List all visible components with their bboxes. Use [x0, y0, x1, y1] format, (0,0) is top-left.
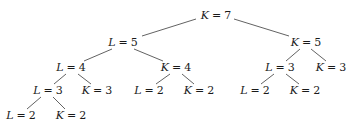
tree-edge — [261, 74, 274, 84]
node-value: 2 — [29, 109, 36, 122]
tree-edge — [134, 49, 163, 61]
node-equals: = — [169, 61, 184, 74]
node-equals: = — [41, 84, 56, 97]
tree-node: K=3 — [316, 62, 346, 74]
node-variable: K — [184, 84, 192, 97]
node-value: 3 — [339, 61, 346, 74]
tree-node: K=2 — [290, 85, 320, 97]
node-value: 3 — [56, 84, 63, 97]
node-variable: K — [316, 61, 324, 74]
node-value: 2 — [157, 84, 164, 97]
tree-edge — [27, 97, 41, 109]
tree-edge — [182, 74, 194, 84]
tree-node: L=5 — [108, 37, 138, 49]
node-value: 3 — [288, 61, 295, 74]
tree-edge — [234, 19, 289, 36]
tree-node: K=3 — [82, 85, 112, 97]
node-value: 3 — [105, 84, 112, 97]
node-variable: K — [291, 36, 299, 49]
node-value: 7 — [224, 9, 231, 22]
tree-node: L=4 — [56, 62, 86, 74]
tree-edge — [53, 97, 65, 109]
node-equals: = — [298, 84, 313, 97]
node-variable: K — [161, 61, 169, 74]
node-value: 2 — [263, 84, 270, 97]
node-variable: K — [56, 109, 64, 122]
node-value: 4 — [184, 61, 191, 74]
tree-edge — [78, 74, 91, 84]
node-equals: = — [273, 61, 288, 74]
tree-node: K=2 — [56, 110, 86, 122]
node-equals: = — [142, 84, 157, 97]
tree-node: L=2 — [6, 110, 36, 122]
node-value: 4 — [79, 61, 86, 74]
node-equals: = — [209, 9, 224, 22]
tree-node: K=7 — [201, 10, 231, 22]
tree-node: L=3 — [265, 62, 295, 74]
tree-edge — [84, 49, 112, 61]
node-equals: = — [64, 61, 79, 74]
node-variable: K — [290, 84, 298, 97]
tree-node: L=2 — [134, 85, 164, 97]
node-value: 5 — [131, 36, 138, 49]
node-value: 2 — [207, 84, 214, 97]
tree-edge — [311, 49, 326, 61]
tree-node: L=2 — [240, 85, 270, 97]
tree-edge — [286, 49, 300, 61]
node-equals: = — [14, 109, 29, 122]
node-equals: = — [299, 36, 314, 49]
tree-node: K=4 — [161, 62, 191, 74]
tree-edge — [156, 74, 170, 84]
node-value: 5 — [314, 36, 321, 49]
tree-node: L=3 — [33, 85, 63, 97]
tree-edge — [54, 74, 66, 84]
node-equals: = — [116, 36, 131, 49]
node-equals: = — [324, 61, 339, 74]
tree-edge — [286, 74, 299, 84]
node-equals: = — [90, 84, 105, 97]
tree-node: K=2 — [184, 85, 214, 97]
node-variable: K — [82, 84, 90, 97]
tree-edge — [142, 19, 196, 36]
node-equals: = — [64, 109, 79, 122]
node-value: 2 — [313, 84, 320, 97]
node-variable: K — [201, 9, 209, 22]
node-equals: = — [192, 84, 207, 97]
tree-node: K=5 — [291, 37, 321, 49]
node-equals: = — [248, 84, 263, 97]
node-value: 2 — [79, 109, 86, 122]
